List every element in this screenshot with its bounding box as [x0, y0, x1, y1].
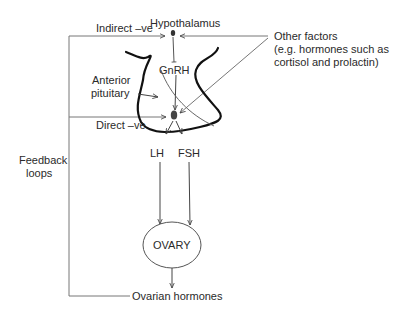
direct-negative-label: Direct –ve: [96, 119, 146, 131]
anterior-pointer: [138, 94, 158, 97]
other-factors-to-pituitary: [180, 38, 268, 113]
hypothalamus-node: [171, 30, 175, 36]
pituitary-node: [171, 111, 177, 120]
ovarian-hormones-label: Ovarian hormones: [132, 290, 223, 302]
ovary-label: OVARY: [153, 239, 191, 251]
lh-label: LH: [150, 147, 164, 159]
indirect-negative-label: Indirect –ve: [96, 22, 153, 34]
other-factors-label: Other factors: [274, 30, 338, 42]
gnrh-label: GnRH: [159, 64, 190, 76]
fsh-label: FSH: [178, 147, 200, 159]
infundibulum-curve: [161, 70, 214, 126]
hypothalamus-label: Hypothalamus: [150, 17, 220, 29]
hypothalamus-to-gnrh: [173, 37, 174, 62]
feedback-loops-label-2: loops: [26, 167, 52, 179]
feedback-loops-label: Feedback: [19, 154, 67, 166]
anterior-pituitary-label-2: pituitary: [91, 87, 130, 99]
fsh-to-ovary: [189, 162, 190, 225]
other-factors-example-label-2: cortisol and prolactin): [274, 56, 379, 68]
anterior-pituitary-label: Anterior: [92, 74, 131, 86]
other-factors-example-label: (e.g. hormones such as: [274, 43, 389, 55]
gnrh-to-pituitary: [175, 75, 176, 110]
